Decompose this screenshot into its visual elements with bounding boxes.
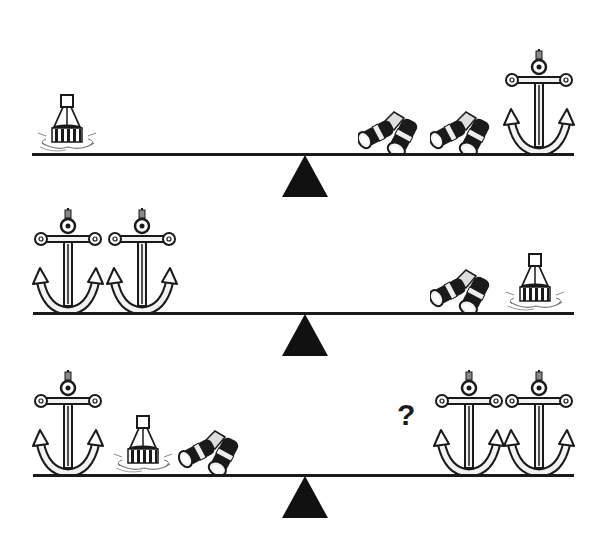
anchor-icon	[503, 368, 575, 476]
fulcrum-triangle	[282, 155, 328, 197]
buoy-icon	[112, 414, 176, 474]
buoy-icon	[504, 252, 568, 312]
binoculars-icon	[358, 104, 428, 156]
anchor-icon	[32, 368, 104, 476]
anchor-icon	[32, 206, 104, 314]
unknown-question-mark: ?	[397, 400, 415, 430]
binoculars-icon	[178, 423, 250, 475]
fulcrum-triangle	[282, 476, 328, 518]
balance-puzzle: ?	[0, 0, 604, 536]
anchor-icon	[106, 206, 178, 314]
binoculars-icon	[430, 104, 500, 156]
buoy-icon	[36, 93, 100, 153]
anchor-icon	[433, 368, 505, 476]
fulcrum-triangle	[282, 314, 328, 356]
binoculars-icon	[430, 262, 500, 314]
anchor-icon	[503, 47, 575, 155]
